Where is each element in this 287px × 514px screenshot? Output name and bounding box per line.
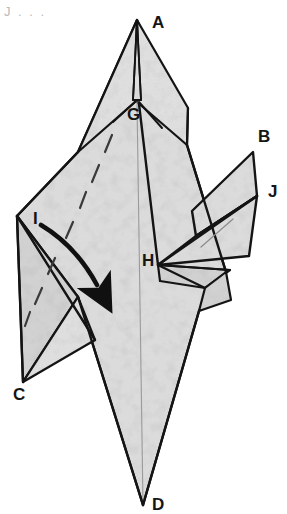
vertex-label-d: D [152, 496, 164, 513]
vertex-label-g: G [127, 106, 140, 123]
vertex-label-i: I [33, 210, 38, 227]
vertex-label-h: H [142, 252, 154, 269]
vertex-label-c: C [13, 386, 25, 403]
origami-diagram-figure: J . . . A G B J I H C D [0, 0, 287, 514]
vertex-label-b: B [258, 128, 270, 145]
corner-note: J . . . [4, 5, 46, 18]
vertex-label-a: A [152, 14, 164, 31]
vertex-label-j: J [268, 183, 277, 200]
edge-upper-right-flap-base [187, 108, 188, 145]
